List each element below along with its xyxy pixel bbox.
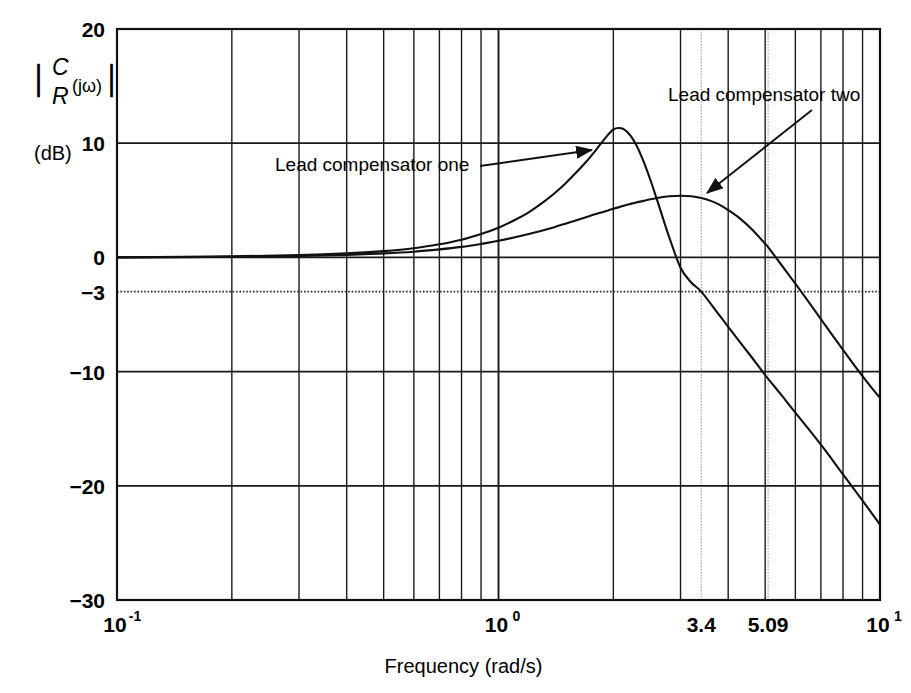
- y-tick-label: −10: [69, 361, 105, 384]
- chart-root: 20100−3−10−20−3010-11003.45.09101Frequen…: [0, 0, 911, 693]
- ylabel-argument: (jω): [72, 76, 102, 96]
- annotation-label-one: Lead compensator one: [275, 154, 469, 175]
- bode-magnitude-plot: 20100−3−10−20−3010-11003.45.09101Frequen…: [0, 0, 911, 693]
- ylabel-units: (dB): [34, 142, 72, 164]
- y-tick-label: −20: [69, 475, 105, 498]
- svg-text:10: 10: [485, 613, 508, 636]
- svg-text:1: 1: [894, 608, 902, 624]
- y-tick-label: −3: [81, 281, 105, 304]
- svg-text:10: 10: [866, 613, 889, 636]
- y-tick-label: 20: [82, 18, 105, 41]
- y-tick-label: 0: [93, 246, 105, 269]
- svg-text:-1: -1: [129, 608, 142, 624]
- y-tick-label: −30: [69, 589, 105, 612]
- annotation-label-two: Lead compensator two: [668, 84, 860, 105]
- ylabel-bar-right: ∣: [103, 60, 120, 98]
- svg-text:10: 10: [103, 613, 126, 636]
- y-tick-label: 10: [82, 132, 105, 155]
- ylabel-numerator: C: [52, 54, 69, 80]
- x-tick-label: 5.09: [748, 613, 789, 636]
- ylabel-bar-left: ∣: [30, 60, 47, 98]
- ylabel-denominator: R: [52, 83, 69, 109]
- chart-canvas: 20100−3−10−20−3010-11003.45.09101Frequen…: [0, 0, 911, 693]
- x-tick-label: 3.4: [687, 613, 717, 636]
- svg-text:0: 0: [513, 608, 521, 624]
- x-axis-title: Frequency (rad/s): [385, 655, 543, 677]
